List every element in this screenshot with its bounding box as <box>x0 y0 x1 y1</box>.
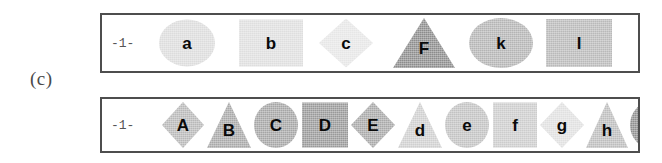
shape-item-h[interactable]: h <box>586 102 628 148</box>
ellipse-icon <box>630 101 640 149</box>
shape-letter: b <box>266 35 276 52</box>
shape-letter: E <box>367 117 378 134</box>
shape-letter: F <box>419 40 429 57</box>
shape-letter: a <box>182 35 191 52</box>
shape-item-A[interactable]: A <box>162 102 204 148</box>
shape-letter: B <box>223 122 235 139</box>
index-label-row-1: -1- <box>111 36 134 51</box>
shape-letter: A <box>177 117 189 134</box>
figure-container: (c) -1- abcFkl -1- ABCDEdefghGH <box>0 0 662 163</box>
strip-inner-row-2: -1- ABCDEdefghGH <box>102 99 638 151</box>
shape-letter: l <box>577 35 582 52</box>
shape-letter: d <box>415 122 425 139</box>
shape-letter: h <box>602 122 612 139</box>
shape-item-a[interactable]: a <box>159 20 215 67</box>
shape-item-B[interactable]: B <box>207 102 251 148</box>
shape-strip-row-1: -1- abcFkl <box>100 13 640 73</box>
shape-item-f[interactable]: f <box>493 103 537 148</box>
shape-item-F[interactable]: F <box>393 18 455 68</box>
shape-item-E[interactable]: E <box>351 102 395 148</box>
figure-caption: (c) <box>30 68 53 90</box>
shape-item-C[interactable]: C <box>254 102 298 148</box>
shape-letter: k <box>496 35 505 52</box>
shape-item-k[interactable]: k <box>469 18 533 68</box>
shape-letter: g <box>557 117 567 134</box>
shape-letter: D <box>319 117 331 134</box>
shape-letter: f <box>512 117 518 134</box>
shape-item-c[interactable]: c <box>319 19 373 68</box>
shape-item-G[interactable]: G <box>630 101 640 149</box>
shape-item-d[interactable]: d <box>398 102 442 148</box>
shape-item-l[interactable]: l <box>546 19 612 67</box>
strip-inner-row-1: -1- abcFkl <box>102 15 638 71</box>
shape-item-e[interactable]: e <box>445 102 489 148</box>
shape-letter: e <box>462 117 471 134</box>
shape-letter: C <box>270 117 282 134</box>
shape-item-D[interactable]: D <box>302 103 348 148</box>
shape-item-b[interactable]: b <box>239 20 303 67</box>
shape-item-g[interactable]: g <box>540 102 584 148</box>
shape-letter: c <box>341 35 350 52</box>
index-label-row-2: -1- <box>111 118 134 133</box>
shape-strip-row-2: -1- ABCDEdefghGH <box>100 97 640 153</box>
